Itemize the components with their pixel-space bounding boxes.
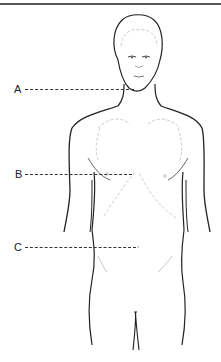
leader-line-b <box>25 174 132 175</box>
left-inner-arm <box>90 180 92 232</box>
right-torso-side <box>181 172 185 345</box>
right-inner-arm <box>186 180 188 232</box>
hairline-detail <box>121 30 157 46</box>
leader-line-c <box>25 247 136 248</box>
mouth <box>134 76 144 77</box>
collarbone-right <box>148 119 180 128</box>
right-nipple <box>164 175 166 177</box>
ribcage-outline-left <box>96 128 136 216</box>
right-shoulder-arm <box>161 106 210 232</box>
chest-right <box>168 158 188 180</box>
hip-line-left <box>98 256 107 272</box>
neck-left <box>118 84 124 106</box>
collarbone-left <box>98 119 130 128</box>
nose <box>135 66 143 68</box>
navel <box>137 246 139 248</box>
neck-right <box>155 84 161 106</box>
leader-line-a <box>25 89 134 90</box>
label-a: A <box>14 84 21 95</box>
head-outline <box>114 15 162 91</box>
human-figure-illustration <box>0 0 221 362</box>
chest-left <box>88 158 110 180</box>
label-b: B <box>15 169 22 180</box>
crotch-line <box>133 312 139 350</box>
label-c: C <box>14 242 22 253</box>
ribcage-outline-right <box>138 128 182 218</box>
hip-line-right <box>158 256 172 272</box>
